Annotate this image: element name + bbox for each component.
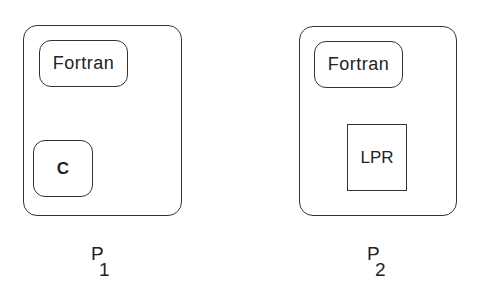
p1-c-label: C [57, 159, 69, 179]
p2-label-subscript: 2 [375, 260, 386, 279]
p2-fortran-label: Fortran [328, 54, 390, 75]
p2-lpr-component: LPR [347, 124, 407, 191]
p1-label-subscript: 1 [99, 260, 110, 279]
p1-fortran-label: Fortran [53, 53, 115, 74]
process-p1-label: P 1 [91, 244, 104, 263]
process-p2-label: P 2 [367, 244, 380, 263]
p1-c-component: C [33, 140, 93, 197]
p2-fortran-component: Fortran [314, 41, 403, 88]
p1-fortran-component: Fortran [39, 40, 128, 87]
p2-lpr-label: LPR [360, 148, 393, 168]
